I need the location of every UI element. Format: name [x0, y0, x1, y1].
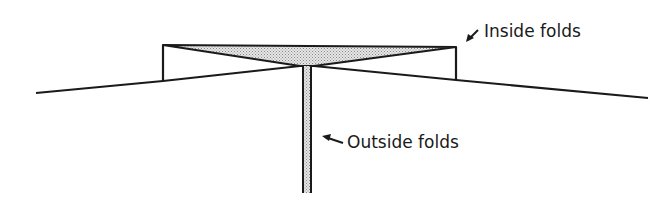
right-base-line	[314, 66, 648, 98]
inside-fold-triangle	[163, 45, 456, 66]
outside-folds-label: Outside folds	[347, 134, 459, 151]
inside-folds-label: Inside folds	[484, 23, 581, 40]
outside-fold-stem	[303, 66, 311, 193]
left-base-line	[36, 66, 300, 93]
outside-arrow-icon	[322, 134, 343, 143]
inside-arrow-icon	[466, 30, 478, 42]
